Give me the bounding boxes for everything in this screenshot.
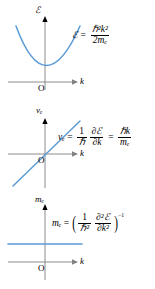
formula-mass-equals: = xyxy=(64,219,69,229)
origin-label: O xyxy=(38,264,45,273)
formula-velocity: vₑ = 1 ℏ ∂ℰ ∂k = ℏk mₑ xyxy=(58,127,133,148)
panel-effective-mass-vs-k: mₑ k O mₑ = ( 1 ℏ² ∂²ℰ ∂k² ) −1 xyxy=(0,192,155,289)
formula-velocity-t3-den: mₑ xyxy=(118,137,131,148)
formula-energy: ℰ = ℏ²k² 2mₑ xyxy=(72,25,111,46)
y-axis-label-mass: mₑ xyxy=(35,195,44,204)
origin-label: O xyxy=(38,84,45,93)
y-axis-label-velocity: vₑ xyxy=(36,106,42,115)
formula-velocity-fraction-2: ∂ℰ ∂k xyxy=(90,127,105,148)
formula-velocity-equals: = xyxy=(67,133,72,143)
energy-parabola-curve xyxy=(16,26,80,66)
x-axis-arrowhead xyxy=(72,151,78,156)
formula-mass-paren-close: ) xyxy=(114,214,118,232)
formula-mass-t2-den: ∂k² xyxy=(95,223,111,234)
energy-plot xyxy=(0,0,155,96)
x-axis-label-k: k xyxy=(80,149,84,158)
y-axis-arrowhead xyxy=(42,16,47,22)
formula-velocity-t1-den: ℏ xyxy=(77,137,87,148)
y-axis-label-energy: ℰ xyxy=(35,6,40,15)
formula-effective-mass: mₑ = ( 1 ℏ² ∂²ℰ ∂k² ) −1 xyxy=(52,213,124,234)
formula-velocity-fraction-1: 1 ℏ xyxy=(77,127,87,148)
dispersion-figure: ℰ k O ℰ = ℏ²k² 2mₑ vₑ k O xyxy=(0,0,155,289)
formula-velocity-fraction-3: ℏk mₑ xyxy=(118,127,132,148)
x-axis-label-k: k xyxy=(80,257,84,266)
panel-energy-vs-k: ℰ k O ℰ = ℏ²k² 2mₑ xyxy=(0,0,155,96)
formula-mass-fraction-1: 1 ℏ² xyxy=(78,213,91,234)
formula-velocity-lhs: vₑ xyxy=(58,133,65,143)
mass-plot xyxy=(0,192,155,289)
x-axis-label-k: k xyxy=(80,77,84,86)
y-axis-arrowhead xyxy=(42,204,47,210)
formula-mass-exponent: −1 xyxy=(118,213,124,219)
x-axis-arrowhead xyxy=(72,79,78,84)
formula-energy-denominator: 2mₑ xyxy=(91,35,109,46)
formula-energy-fraction: ℏ²k² 2mₑ xyxy=(90,25,110,46)
formula-mass-t1-num: 1 xyxy=(80,213,89,223)
formula-energy-lhs: ℰ xyxy=(72,31,78,41)
formula-energy-equals: = xyxy=(81,31,86,41)
formula-energy-numerator: ℏ²k² xyxy=(90,25,110,35)
formula-mass-lhs: mₑ xyxy=(52,219,61,229)
panel-velocity-vs-k: vₑ k O vₑ = 1 ℏ ∂ℰ ∂k = ℏk mₑ xyxy=(0,96,155,192)
formula-mass-t1-den: ℏ² xyxy=(78,223,91,234)
formula-mass-paren-open: ( xyxy=(72,214,76,232)
formula-velocity-t2-num: ∂ℰ xyxy=(90,127,105,137)
formula-velocity-equals-2: = xyxy=(108,133,113,143)
origin-label: O xyxy=(38,156,45,165)
x-axis-arrowhead xyxy=(72,259,78,264)
formula-mass-paren-close-group: ) −1 xyxy=(113,214,124,232)
formula-mass-t2-num: ∂²ℰ xyxy=(94,213,112,223)
formula-mass-fraction-2: ∂²ℰ ∂k² xyxy=(94,213,112,234)
formula-velocity-t2-den: ∂k xyxy=(90,137,103,148)
formula-velocity-t3-num: ℏk xyxy=(118,127,132,137)
formula-velocity-t1-num: 1 xyxy=(77,127,86,137)
y-axis-arrowhead xyxy=(42,118,47,124)
